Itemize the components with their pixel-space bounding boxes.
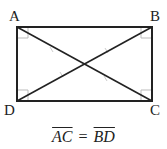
vertex-label-c: C [150,103,160,118]
equals-sign: = [79,128,88,145]
vertex-label-b: B [150,9,160,24]
tick-marks [50,47,108,81]
vertex-label-d: D [4,103,15,118]
vertex-label-a: A [9,9,20,24]
rectangle-diagram [0,0,167,149]
segment-ac: AC [52,128,72,145]
segment-bd: BD [94,128,115,145]
equation: AC=BD [0,128,167,146]
